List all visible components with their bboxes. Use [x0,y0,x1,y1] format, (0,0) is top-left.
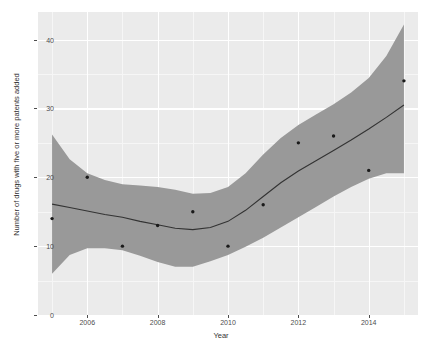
data-point [226,244,229,247]
y-tick-mark [34,246,37,247]
data-layer [38,12,418,315]
x-tick-mark [87,315,88,318]
chart-svg [38,12,418,315]
y-tick-mark [34,40,37,41]
y-tick-mark [34,315,37,316]
y-axis-title: Number of drugs with five or more patent… [12,55,21,255]
y-tick-label: 20 [46,174,54,181]
y-tick-mark [34,177,37,178]
x-tick-label: 2006 [79,319,95,326]
y-tick-label: 30 [46,105,54,112]
data-point [86,176,89,179]
data-point [191,210,194,213]
y-tick-mark [34,108,37,109]
data-point [121,244,124,247]
x-axis-title: Year [0,331,442,340]
data-point [402,79,405,82]
x-tick-label: 2008 [150,319,166,326]
x-tick-mark [369,315,370,318]
data-point [50,217,53,220]
chart-figure: Year Number of drugs with five or more p… [0,0,442,352]
x-tick-label: 2014 [361,319,377,326]
data-point [261,203,264,206]
x-tick-mark [298,315,299,318]
data-point [156,224,159,227]
y-tick-label: 0 [50,312,54,319]
plot-panel [38,12,418,315]
data-point [297,141,300,144]
x-tick-mark [158,315,159,318]
data-point [367,169,370,172]
x-tick-mark [228,315,229,318]
data-point [332,134,335,137]
y-tick-label: 10 [46,243,54,250]
x-tick-label: 2012 [291,319,307,326]
y-tick-label: 40 [46,36,54,43]
confidence-ribbon [52,24,404,273]
x-tick-label: 2010 [220,319,236,326]
